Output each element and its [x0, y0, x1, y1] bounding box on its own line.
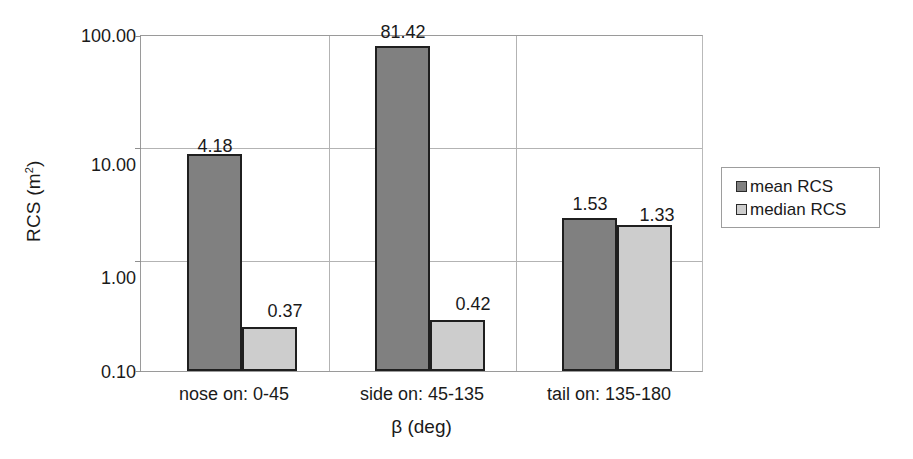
y-tick-mark — [135, 371, 141, 372]
x-category-label-side-on: side on: 45-135 — [328, 384, 516, 404]
y-axis-title-exponent: 2 — [23, 167, 35, 173]
legend-swatch-icon — [736, 181, 747, 192]
legend-label-mean-rcs: mean RCS — [750, 178, 833, 195]
value-label-mean-nose-on: 4.18 — [175, 137, 255, 155]
y-axis-title-base: RCS (m — [23, 173, 44, 242]
value-label-median-side-on: 0.42 — [433, 295, 513, 313]
y-tick-label: 0.10 — [56, 363, 136, 381]
value-label-mean-side-on: 81.42 — [363, 23, 443, 41]
x-axis-title: β (deg) — [140, 416, 703, 438]
category-divider — [516, 36, 517, 371]
bar-median-side-on[interactable] — [430, 320, 485, 371]
legend: mean RCS median RCS — [721, 167, 880, 228]
value-label-median-nose-on: 0.37 — [245, 302, 325, 320]
x-category-label-nose-on: nose on: 0-45 — [140, 384, 328, 404]
value-label-median-tail-on: 1.33 — [617, 206, 697, 224]
bar-mean-nose-on[interactable] — [187, 154, 242, 371]
category-divider — [329, 36, 330, 371]
y-tick-label: 1.00 — [56, 269, 136, 287]
y-axis-title-close: ) — [23, 160, 44, 167]
y-tick-mark — [135, 148, 141, 149]
y-axis-tick-labels: 100.00 10.00 1.00 0.10 — [52, 0, 136, 459]
plot-area: 4.18 0.37 81.42 0.42 1.53 1.33 — [140, 35, 703, 372]
y-tick-mark — [135, 36, 141, 37]
legend-item-median-rcs[interactable]: median RCS — [736, 198, 879, 221]
y-tick-label: 100.00 — [56, 27, 136, 45]
y-axis-title: RCS (m2) — [23, 141, 45, 261]
y-tick-label: 10.00 — [56, 156, 136, 174]
legend-swatch-icon — [736, 204, 747, 215]
bar-mean-side-on[interactable] — [375, 46, 430, 371]
y-tick-mark — [135, 261, 141, 262]
x-category-label-tail-on: tail on: 135-180 — [515, 384, 703, 404]
bar-median-tail-on[interactable] — [617, 225, 672, 371]
bar-mean-tail-on[interactable] — [562, 218, 617, 371]
bar-median-nose-on[interactable] — [242, 327, 297, 371]
rcs-bar-chart: RCS (m2) 100.00 10.00 1.00 0.10 4.18 0.3… — [0, 0, 913, 459]
legend-item-mean-rcs[interactable]: mean RCS — [736, 175, 879, 198]
legend-label-median-rcs: median RCS — [750, 201, 846, 218]
